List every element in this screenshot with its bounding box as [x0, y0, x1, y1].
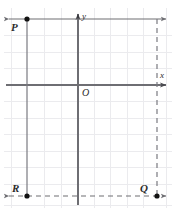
coordinate-plane-figure: P Q R O x y — [0, 0, 175, 215]
grid-lines — [4, 8, 172, 208]
point-label-Q: Q — [140, 183, 148, 194]
point-R — [24, 193, 29, 198]
origin-label: O — [82, 88, 89, 98]
axis-label-x: x — [160, 71, 164, 80]
point-label-R: R — [12, 183, 19, 194]
figure-canvas — [0, 0, 175, 215]
axis-label-y: y — [82, 12, 86, 21]
point-P — [24, 16, 29, 21]
point-label-P: P — [11, 22, 18, 33]
point-Q — [154, 193, 159, 198]
